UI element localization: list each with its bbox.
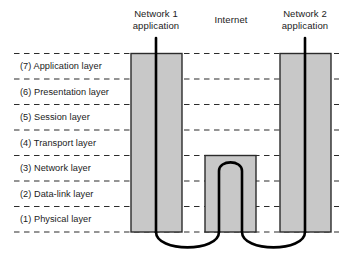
layer-label-transport: (4) Transport layer: [20, 137, 132, 149]
layer-label-physical: (1) Physical layer: [20, 213, 132, 225]
layer-label-network: (3) Network layer: [20, 162, 132, 174]
column-header-network1: Network 1 application: [116, 8, 196, 31]
internet-stack-box: [205, 156, 256, 233]
cable-segment-link1-loop: [156, 232, 219, 247]
column-header-network2: Network 2 application: [265, 8, 345, 31]
column-header-internet: Internet: [191, 14, 271, 26]
layer-label-session: (5) Session layer: [20, 111, 132, 123]
layer-label-application: (7) Application layer: [20, 60, 132, 72]
cable-segment-link2-loop: [242, 232, 305, 247]
layer-label-data-link: (2) Data-link layer: [20, 188, 132, 200]
layer-label-presentation: (6) Presentation layer: [20, 86, 132, 98]
osi-layers-diagram: Network 1 application Internet Network 2…: [0, 0, 355, 260]
